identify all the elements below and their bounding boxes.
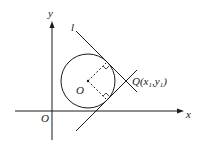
radius-upper: [88, 63, 106, 81]
tangent-line-2: [76, 70, 137, 131]
x-axis-arrow-icon: [177, 109, 184, 114]
y-axis-label: y: [47, 7, 53, 19]
right-angle-upper-icon: [103, 66, 109, 69]
point-q-open: (x: [140, 75, 149, 88]
svg-text:Q(x1,y1): Q(x1,y1): [132, 75, 167, 89]
tangent-lines-diagram: y x O O l Q(x1,y1): [0, 0, 202, 147]
line-l-label: l: [71, 21, 74, 33]
point-q-label: Q(x1,y1): [132, 75, 167, 89]
tangent-line-l: [76, 31, 137, 92]
radii-dashed: [88, 63, 106, 99]
x-axis-label: x: [185, 108, 191, 120]
point-q-comma: ,y: [152, 75, 160, 87]
origin-label: O: [41, 112, 49, 124]
radius-lower: [88, 81, 106, 99]
point-q-close: ): [162, 75, 167, 88]
y-axis-arrow-icon: [50, 21, 55, 28]
point-q-name: Q: [132, 75, 140, 87]
right-angle-markers: [103, 66, 109, 96]
right-angle-lower-icon: [103, 93, 109, 96]
center-point: [87, 80, 89, 82]
circle-center-label: O: [76, 84, 84, 96]
